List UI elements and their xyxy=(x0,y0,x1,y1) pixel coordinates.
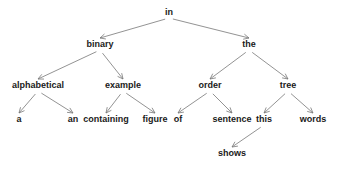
node-this: this xyxy=(256,114,272,124)
node-the: the xyxy=(242,39,256,49)
binary-tree-diagram: inbinarythealphabeticalexampleordertreea… xyxy=(0,0,339,171)
edge-line xyxy=(252,52,288,79)
edge-this-shows xyxy=(232,127,261,147)
edge-line xyxy=(100,19,165,38)
node-example: example xyxy=(105,80,141,90)
edge-line xyxy=(213,94,232,113)
edge-the-tree xyxy=(252,52,288,79)
edge-binary-alphabetical xyxy=(38,52,96,79)
arrowhead-icon xyxy=(149,108,155,113)
node-sentence: sentence xyxy=(212,114,251,124)
edge-line xyxy=(232,127,261,147)
edge-tree-this xyxy=(264,94,285,113)
node-shows: shows xyxy=(218,148,246,158)
edge-order-of xyxy=(178,93,207,113)
edge-in-binary xyxy=(100,19,165,39)
node-of: of xyxy=(174,114,183,124)
node-an: an xyxy=(68,114,79,124)
edge-line xyxy=(41,93,73,113)
edge-example-containing xyxy=(106,94,121,113)
nodes-layer: inbinarythealphabeticalexampleordertreea… xyxy=(12,7,326,158)
edge-line xyxy=(102,53,123,79)
edge-alphabetical-an xyxy=(41,93,73,113)
edge-line xyxy=(178,93,207,113)
edge-line xyxy=(106,94,121,113)
edge-order-sentence xyxy=(213,94,232,113)
node-a: a xyxy=(16,114,22,124)
edge-alphabetical-a xyxy=(19,94,35,113)
edge-tree-words xyxy=(291,94,313,113)
edge-line xyxy=(210,52,246,79)
edge-line xyxy=(291,94,313,113)
node-binary: binary xyxy=(86,39,113,49)
arrowhead-icon xyxy=(67,108,73,113)
node-in: in xyxy=(165,7,173,17)
edge-in-the xyxy=(173,19,249,39)
edge-line xyxy=(126,93,155,113)
edge-line xyxy=(19,94,35,113)
node-order: order xyxy=(198,80,222,90)
arrowhead-icon xyxy=(232,142,238,147)
node-containing: containing xyxy=(83,114,129,124)
edge-binary-example xyxy=(102,53,123,79)
edge-line xyxy=(264,94,285,113)
node-alphabetical: alphabetical xyxy=(12,80,64,90)
edge-line xyxy=(38,52,96,79)
arrowhead-icon xyxy=(178,108,184,113)
edge-line xyxy=(173,19,249,38)
node-figure: figure xyxy=(142,114,167,124)
node-words: words xyxy=(299,114,327,124)
node-tree: tree xyxy=(280,80,297,90)
edge-the-order xyxy=(210,52,246,79)
edge-example-figure xyxy=(126,93,155,113)
